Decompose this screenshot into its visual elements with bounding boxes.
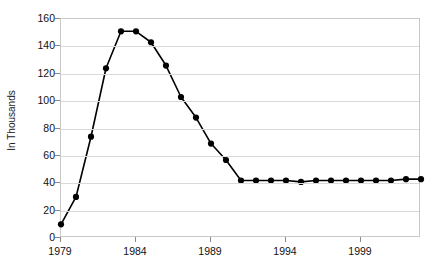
data-point-marker	[133, 28, 139, 34]
y-tick-label: 0	[8, 231, 60, 243]
y-tick-mark	[55, 210, 60, 211]
chart-title	[0, 0, 438, 2]
gridline	[61, 156, 419, 157]
gridline	[61, 74, 419, 75]
y-tick-mark	[55, 182, 60, 183]
gridline	[61, 46, 419, 47]
data-point-marker	[58, 221, 64, 227]
data-point-marker	[178, 94, 184, 100]
x-tick-label: 1989	[198, 245, 221, 257]
y-tick-mark	[55, 128, 60, 129]
x-tick-mark	[285, 237, 286, 242]
x-tick-label: 1994	[273, 245, 296, 257]
x-tick-label: 1979	[48, 245, 71, 257]
y-tick-label: 80	[8, 122, 60, 134]
y-tick-mark	[55, 100, 60, 101]
y-tick-mark	[55, 45, 60, 46]
data-point-marker	[73, 194, 79, 200]
y-tick-label: 60	[8, 149, 60, 161]
data-point-marker	[223, 157, 229, 163]
x-tick-mark	[360, 237, 361, 242]
x-tick-mark	[60, 237, 61, 242]
plot-area	[60, 18, 420, 237]
data-point-marker	[163, 62, 169, 68]
y-tick-label: 40	[8, 176, 60, 188]
data-point-marker	[208, 140, 214, 146]
data-point-marker	[148, 39, 154, 45]
y-tick-label: 20	[8, 204, 60, 216]
line-chart: In Thousands 020406080100120140160 19791…	[0, 0, 438, 272]
data-point-marker	[418, 176, 424, 182]
y-tick-label: 140	[8, 39, 60, 51]
gridline	[61, 129, 419, 130]
gridline	[61, 211, 419, 212]
data-point-marker	[118, 28, 124, 34]
x-tick-mark	[210, 237, 211, 242]
data-point-marker	[403, 176, 409, 182]
y-tick-mark	[55, 18, 60, 19]
y-tick-label: 160	[8, 12, 60, 24]
y-tick-mark	[55, 73, 60, 74]
data-point-marker	[103, 65, 109, 71]
gridline	[61, 183, 419, 184]
data-point-marker	[88, 134, 94, 140]
x-tick-label: 1999	[348, 245, 371, 257]
x-tick-label: 1984	[123, 245, 146, 257]
gridline	[61, 101, 419, 102]
y-tick-label: 100	[8, 94, 60, 106]
y-tick-mark	[55, 155, 60, 156]
x-tick-mark	[135, 237, 136, 242]
data-point-marker	[193, 114, 199, 120]
y-axis-tick-labels: 020406080100120140160	[0, 18, 60, 237]
y-tick-label: 120	[8, 67, 60, 79]
